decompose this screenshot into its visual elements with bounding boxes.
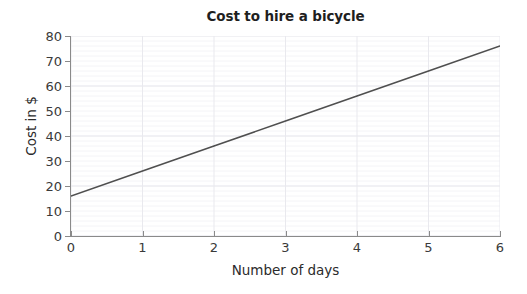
- x-tick-mark: [286, 231, 287, 236]
- x-tick-label: 3: [274, 240, 298, 255]
- x-tick-label: 5: [417, 240, 441, 255]
- x-tick-mark: [357, 231, 358, 236]
- y-tick-mark: [65, 236, 70, 237]
- y-tick-mark: [65, 136, 70, 137]
- y-tick-mark: [65, 161, 70, 162]
- x-tick-label: 6: [488, 240, 512, 255]
- x-tick-label: 0: [59, 240, 83, 255]
- plot-area: [71, 36, 500, 236]
- y-tick-mark: [65, 86, 70, 87]
- x-axis-title: Number of days: [71, 262, 500, 278]
- y-axis-line: [70, 36, 71, 237]
- x-axis-line: [70, 236, 501, 237]
- x-tick-mark: [429, 231, 430, 236]
- x-tick-mark: [214, 231, 215, 236]
- y-tick-mark: [65, 186, 70, 187]
- y-tick-mark: [65, 111, 70, 112]
- x-tick-mark: [500, 231, 501, 236]
- y-axis-title: Cost in $: [23, 71, 39, 181]
- x-tick-label: 2: [202, 240, 226, 255]
- chart-container: Cost to hire a bicycle 01020304050607080…: [0, 0, 527, 294]
- y-tick-label: 80: [30, 29, 62, 44]
- y-tick-label: 10: [30, 204, 62, 219]
- x-tick-mark: [71, 231, 72, 236]
- x-tick-mark: [143, 231, 144, 236]
- x-tick-label: 1: [131, 240, 155, 255]
- chart-title: Cost to hire a bicycle: [71, 8, 500, 24]
- x-tick-label: 4: [345, 240, 369, 255]
- y-tick-label: 0: [30, 229, 62, 244]
- plot-svg: [71, 36, 500, 236]
- y-tick-label: 70: [30, 54, 62, 69]
- y-tick-mark: [65, 36, 70, 37]
- y-tick-mark: [65, 61, 70, 62]
- y-tick-mark: [65, 211, 70, 212]
